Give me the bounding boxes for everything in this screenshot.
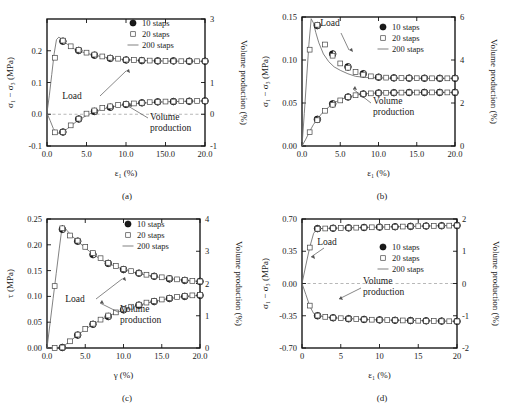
x-tick-label: 20	[453, 351, 462, 361]
data-point-20	[384, 90, 389, 95]
subplot-b-caption: (b)	[255, 191, 509, 201]
data-point-20	[175, 295, 180, 300]
load-annotation-label: Load	[320, 18, 340, 28]
data-point-20	[155, 59, 160, 64]
y2-tick-label: 4	[460, 55, 465, 65]
legend-label: 10 staps	[137, 219, 165, 229]
y2-tick-label: 1	[462, 246, 466, 256]
x-tick-label: 5	[339, 351, 343, 361]
data-point-20	[422, 90, 427, 95]
plot-frame	[47, 219, 200, 348]
data-point-20	[323, 108, 328, 113]
data-point-20	[92, 52, 97, 57]
subplot-d-canvas: 05101520-0.70-0.350.000.350.70-2-1012σ₁ …	[255, 202, 509, 404]
data-point-20	[416, 224, 421, 229]
data-point-20	[414, 90, 419, 95]
data-point-20	[52, 284, 57, 289]
legend: 10 staps20 staps200 staps	[378, 242, 424, 274]
data-point-20	[182, 277, 187, 282]
data-point-20	[323, 42, 328, 47]
x-tick-label: 15	[414, 351, 423, 361]
x-axis-title: ε₁ (%)	[367, 168, 390, 178]
y-tick-label: 0.00	[27, 343, 42, 353]
data-point-20	[331, 315, 336, 320]
data-point-20	[400, 318, 405, 323]
y2-tick-label: 3	[205, 246, 209, 256]
data-point-20	[60, 130, 65, 135]
data-point-20	[139, 58, 144, 63]
data-point-20	[76, 47, 81, 52]
data-point-20	[68, 123, 73, 128]
load-annotation-arrow	[311, 248, 324, 257]
data-point-20	[385, 318, 390, 323]
subplot-c-caption: (c)	[0, 393, 254, 403]
data-point-20	[124, 102, 129, 107]
data-point-20	[391, 75, 396, 80]
data-point-20	[315, 313, 320, 318]
x-tick-label: 5.0	[335, 149, 346, 159]
data-point-20	[92, 108, 97, 113]
data-point-20	[369, 225, 374, 230]
data-point-20	[416, 318, 421, 323]
legend-label: 20 staps	[392, 33, 420, 43]
x-axis-title: ε₁ (%)	[368, 370, 391, 380]
data-point-20	[116, 103, 121, 108]
data-point-20	[203, 99, 208, 104]
volume-annotation-label-line2: production	[150, 123, 191, 133]
plot-frame	[302, 17, 455, 146]
data-point-20	[60, 226, 65, 231]
data-point-20	[84, 111, 89, 116]
data-point-20	[346, 316, 351, 321]
data-point-20	[362, 317, 367, 322]
load-annotation-arrow	[341, 33, 349, 50]
data-point-20	[152, 299, 157, 304]
y-tick-label: 0.10	[27, 291, 42, 301]
data-point-20	[152, 274, 157, 279]
data-point-20	[155, 99, 160, 104]
data-point-20	[190, 279, 195, 284]
data-point-20	[167, 296, 172, 301]
x-tick-label: 150.0	[156, 149, 175, 159]
data-point-20	[338, 61, 343, 66]
data-point-20	[315, 118, 320, 123]
load-annotation-label: Load	[62, 91, 82, 101]
series-line-200	[302, 19, 455, 146]
y-tick-label: -0.1	[29, 141, 42, 151]
load-annotation-label: Load	[65, 294, 85, 304]
data-point-20	[323, 314, 328, 319]
data-point-20	[53, 55, 58, 60]
data-point-20	[445, 90, 450, 95]
data-point-20	[377, 318, 382, 323]
data-point-20	[330, 102, 335, 107]
data-point-20	[60, 38, 65, 43]
volume-arrow-head	[339, 296, 343, 300]
data-point-20	[338, 316, 343, 321]
data-point-20	[399, 90, 404, 95]
x-tick-label: 15.0	[154, 351, 169, 361]
x-tick-label: 15.0	[409, 149, 424, 159]
data-point-20	[430, 76, 435, 81]
y-axis-title: σ₁ − σ₃ (MPa)	[5, 57, 15, 108]
y2-tick-label: -2	[462, 343, 469, 353]
y-axis-title: σ₁ − σ₃ (MPa)	[260, 56, 270, 107]
y-tick-label: 0.15	[27, 266, 42, 276]
volume-annotation-arrow	[339, 288, 361, 299]
subplot-c-canvas: 0.05.010.015.020.00.000.050.100.150.200.…	[0, 202, 254, 404]
data-point-20	[447, 223, 452, 228]
volume-annotation-label-line1: Volume	[363, 276, 392, 286]
data-point-20	[182, 293, 187, 298]
data-point-20	[353, 93, 358, 98]
data-point-20	[136, 271, 141, 276]
y2-tick-label: -1	[462, 311, 469, 321]
data-point-20	[307, 47, 312, 52]
data-point-20	[195, 59, 200, 64]
data-point-20	[338, 226, 343, 231]
data-point-20	[139, 100, 144, 105]
data-point-20	[453, 76, 458, 81]
legend: 10 staps20 staps200 staps	[378, 22, 424, 54]
data-point-20	[376, 91, 381, 96]
subplot-c: 0.05.010.015.020.00.000.050.100.150.200.…	[0, 202, 254, 404]
volume-annotation-label-line2: production	[363, 287, 404, 297]
data-point-20	[171, 99, 176, 104]
data-point-20	[132, 101, 137, 106]
